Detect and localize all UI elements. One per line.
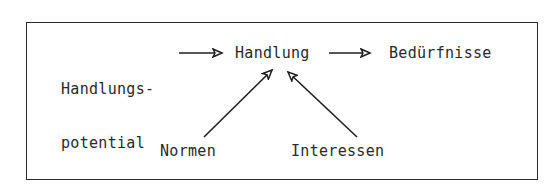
node-normen: Normen — [160, 142, 216, 160]
node-handlungspotential-line1: Handlungs- — [61, 80, 154, 98]
node-interessen: Interessen — [291, 142, 384, 160]
node-beduerfnisse: Bedürfnisse — [389, 44, 492, 62]
arrow-normen-to-handlung — [204, 70, 272, 137]
diagram-canvas: Handlungs- potential Handlung Bedürfniss… — [0, 0, 559, 193]
arrow-interessen-to-handlung — [288, 72, 357, 137]
node-handlungspotential: Handlungs- potential — [61, 44, 154, 188]
node-handlung: Handlung — [235, 44, 310, 62]
node-handlungspotential-line2: potential — [61, 134, 154, 152]
